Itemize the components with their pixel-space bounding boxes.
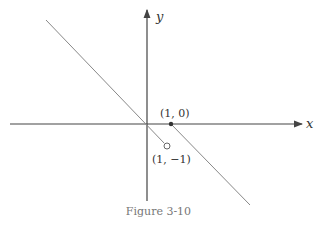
y-axis-label: y [155,9,164,24]
graph-figure: y x (1, 0) (1, −1) [0,0,317,228]
filled-point-1-0 [169,122,173,126]
figure-caption: Figure 3-10 [0,205,317,218]
x-axis-label: x [306,116,314,131]
point-label-1-0: (1, 0) [160,107,190,120]
point-label-1-neg1: (1, −1) [152,153,191,166]
open-point-1-neg1 [164,143,170,149]
